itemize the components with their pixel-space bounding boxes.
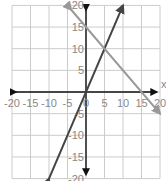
- x-tick-label: 5: [101, 97, 107, 109]
- y-tick-label: 10: [72, 43, 84, 55]
- y-tick-label: -20: [68, 173, 84, 181]
- x-tick-label: -10: [41, 97, 57, 109]
- x-tick-label: -20: [4, 97, 20, 109]
- x-tick-label: -15: [23, 97, 39, 109]
- y-tick-label: 20: [72, 0, 84, 11]
- x-tick-label: -5: [63, 97, 73, 109]
- y-tick-label: 5: [78, 64, 84, 76]
- y-tick-label: -15: [68, 151, 84, 163]
- coordinate-plane-chart: -20-15-10-5051015202015105-5-10-15-20 x: [0, 0, 166, 181]
- y-tick-label: -10: [68, 129, 84, 141]
- x-tick-label: 10: [117, 97, 129, 109]
- x-axis-label: x: [161, 78, 166, 90]
- x-tick-label: 15: [135, 97, 147, 109]
